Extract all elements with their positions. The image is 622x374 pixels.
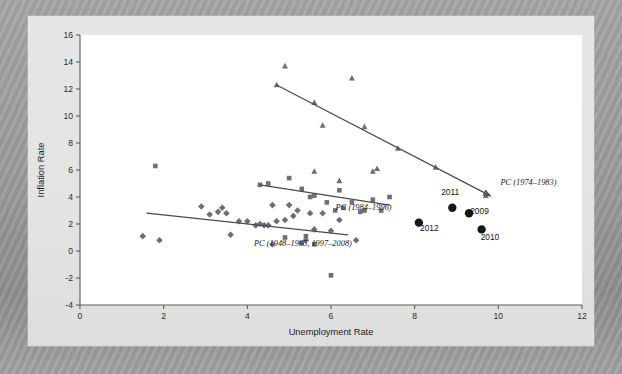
y-tick-label: 12 [63, 84, 73, 94]
data-point-square [371, 197, 376, 202]
y-tick-label: 0 [68, 246, 73, 256]
data-point-circle [448, 204, 456, 212]
year-annotation: 2009 [470, 206, 489, 216]
figure-container: -4-20246810121416024681012Unemployment R… [0, 0, 622, 374]
scatter-plot: -4-20246810121416024681012Unemployment R… [28, 16, 594, 346]
plot-area [80, 35, 582, 305]
x-tick-label: 4 [245, 311, 250, 321]
year-annotation: 2012 [420, 223, 439, 233]
data-point-square [304, 234, 309, 239]
data-point-square [325, 200, 330, 205]
y-tick-label: 14 [63, 57, 73, 67]
year-annotation: 2011 [441, 187, 459, 197]
pc-annotation: PC (1984–1996) [335, 203, 392, 212]
y-tick-label: -4 [65, 300, 73, 310]
data-point-square [329, 273, 334, 278]
x-axis-title: Unemployment Rate [289, 327, 374, 337]
data-point-square [153, 164, 158, 169]
y-tick-label: 10 [63, 111, 73, 121]
x-tick-label: 8 [412, 311, 417, 321]
data-point-square [308, 195, 313, 200]
data-point-square [387, 195, 392, 200]
y-tick-label: 4 [68, 192, 73, 202]
year-annotation: 2010 [481, 232, 500, 242]
x-tick-label: 2 [161, 311, 166, 321]
y-tick-label: 16 [63, 30, 73, 40]
x-tick-label: 12 [577, 311, 587, 321]
y-axis-title: Inflation Rate [36, 143, 46, 198]
pc-annotation: PC (1948–1965, 1997–2008) [253, 239, 352, 248]
data-point-square [266, 181, 271, 186]
y-tick-label: -2 [65, 273, 73, 283]
x-tick-label: 0 [78, 311, 83, 321]
x-tick-label: 6 [329, 311, 334, 321]
data-point-square [337, 188, 342, 193]
y-tick-label: 2 [68, 219, 73, 229]
data-point-square [287, 176, 292, 181]
pc-annotation: PC (1974–1983) [499, 178, 556, 187]
x-tick-label: 10 [494, 311, 504, 321]
y-tick-label: 6 [68, 165, 73, 175]
figure-panel: -4-20246810121416024681012Unemployment R… [28, 16, 594, 346]
y-tick-label: 8 [68, 138, 73, 148]
